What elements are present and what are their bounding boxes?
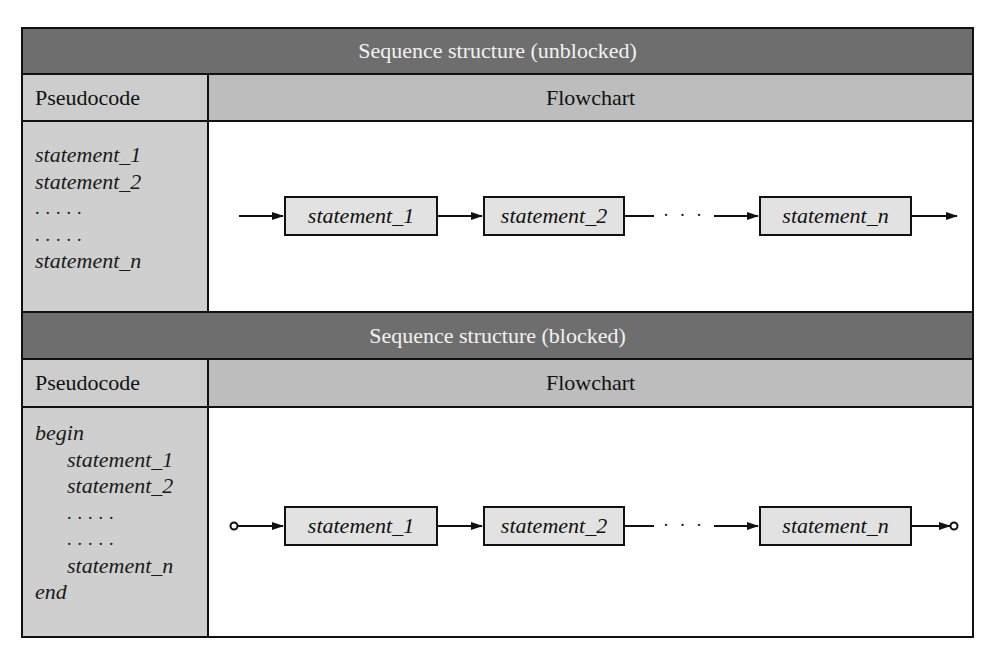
section-header-row: Pseudocode Flowchart <box>23 75 972 122</box>
pseudocode-block: statement_1 statement_2 ..... ..... stat… <box>23 122 209 311</box>
section-title-unblocked: Sequence structure (unblocked) <box>23 29 972 75</box>
pseudocode-block: begin statement_1 statement_2 ..... ....… <box>23 408 209 636</box>
pseudocode-line: statement_1 <box>35 142 207 169</box>
flow-box-statement-n: statement_n <box>759 196 912 236</box>
pseudocode-line: statement_n <box>35 553 207 580</box>
flowchart-area: · · · statement_1 statement_2 statement_… <box>209 122 972 311</box>
pseudocode-header: Pseudocode <box>23 360 209 406</box>
pseudocode-line: statement_1 <box>35 447 207 474</box>
pseudocode-line: end <box>35 579 207 606</box>
flow-ellipsis: · · · <box>663 205 705 225</box>
pseudocode-line: begin <box>35 420 207 447</box>
pseudocode-ellipsis: ..... <box>35 222 207 249</box>
flow-box-statement-1: statement_1 <box>284 196 438 236</box>
section-title-text: Sequence structure (blocked) <box>369 323 626 349</box>
pseudocode-line: statement_n <box>35 248 207 275</box>
entry-terminal-icon <box>231 523 238 530</box>
section-title-text: Sequence structure (unblocked) <box>358 38 637 64</box>
sequence-structure-table: Sequence structure (unblocked) Pseudocod… <box>21 27 974 638</box>
pseudocode-ellipsis: ..... <box>35 500 207 527</box>
flow-box-statement-2: statement_2 <box>483 506 625 546</box>
pseudocode-line: statement_2 <box>35 473 207 500</box>
pseudocode-ellipsis: ..... <box>35 526 207 553</box>
pseudocode-header: Pseudocode <box>23 75 209 120</box>
exit-terminal-icon <box>951 523 958 530</box>
flow-box-statement-2: statement_2 <box>483 196 625 236</box>
section-title-blocked: Sequence structure (blocked) <box>23 313 972 360</box>
flow-box-statement-n: statement_n <box>759 506 912 546</box>
pseudocode-ellipsis: ..... <box>35 195 207 222</box>
flowchart-header: Flowchart <box>209 360 972 406</box>
flow-ellipsis: · · · <box>663 515 705 535</box>
pseudocode-line: statement_2 <box>35 169 207 196</box>
flowchart-area: · · · statement_1 statement_2 statement_… <box>209 408 972 636</box>
section-header-row: Pseudocode Flowchart <box>23 360 972 408</box>
flow-box-statement-1: statement_1 <box>284 506 438 546</box>
section-content-unblocked: statement_1 statement_2 ..... ..... stat… <box>23 122 972 313</box>
section-content-blocked: begin statement_1 statement_2 ..... ....… <box>23 408 972 636</box>
flowchart-header: Flowchart <box>209 75 972 120</box>
